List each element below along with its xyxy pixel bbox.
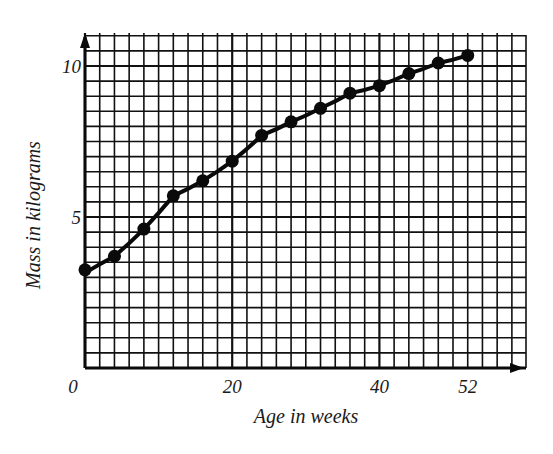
y-axis-title: Mass in kilograms xyxy=(22,141,45,290)
data-point xyxy=(285,115,298,128)
data-point xyxy=(108,250,121,263)
data-point xyxy=(79,263,92,276)
data-point xyxy=(255,129,268,142)
data-point xyxy=(402,67,415,80)
y-tick-label: 5 xyxy=(72,207,82,228)
data-point xyxy=(373,79,386,92)
data-point xyxy=(137,223,150,236)
y-tick-label: 10 xyxy=(62,56,82,77)
x-tick-labels: 0204052 xyxy=(68,376,477,397)
data-point xyxy=(343,87,356,100)
grid xyxy=(85,33,526,368)
x-tick-label: 0 xyxy=(68,376,78,397)
x-tick-label: 52 xyxy=(458,376,478,397)
growth-chart: 0204052 510 Age in weeks Mass in kilogra… xyxy=(0,0,553,454)
data-point xyxy=(196,174,209,187)
data-point xyxy=(314,102,327,115)
data-point xyxy=(167,189,180,202)
chart-canvas: 0204052 510 Age in weeks Mass in kilogra… xyxy=(0,0,553,454)
data-point xyxy=(432,56,445,69)
data-point xyxy=(226,155,239,168)
x-axis-arrow-icon xyxy=(510,363,524,373)
x-tick-label: 20 xyxy=(223,376,243,397)
y-tick-labels: 510 xyxy=(62,56,82,228)
data-point xyxy=(461,49,474,62)
x-tick-label: 40 xyxy=(370,376,390,397)
x-axis-title: Age in weeks xyxy=(252,405,359,428)
